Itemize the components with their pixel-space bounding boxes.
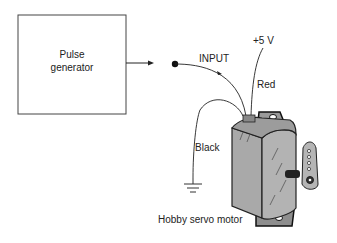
red-wire-label: Red: [257, 79, 275, 90]
supply-label: +5 V: [253, 35, 274, 46]
signal-arrow: [126, 61, 154, 66]
pulse-generator-line1: Pulse: [18, 48, 126, 61]
input-wire: [175, 64, 246, 116]
servo-motor: [232, 112, 318, 226]
pulse-generator-label: Pulse generator: [18, 48, 126, 74]
pulse-generator-line2: generator: [18, 61, 126, 74]
ground-icon: [184, 178, 202, 192]
input-label: INPUT: [199, 53, 229, 64]
servo-label: Hobby servo motor: [158, 214, 242, 225]
servo-wiring-diagram: [0, 0, 337, 243]
black-wire-label: Black: [195, 142, 219, 153]
